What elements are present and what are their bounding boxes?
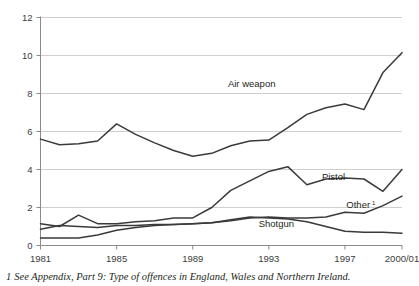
chart-container: 024681012 198119851989199319972000/01 Ai… xyxy=(0,0,419,286)
x-tick-label: 1985 xyxy=(106,253,127,264)
series-label-air-weapon: Air weapon xyxy=(228,78,276,89)
series-line-air-weapon xyxy=(41,53,403,157)
x-tick-label: 1989 xyxy=(182,253,203,264)
series-label-text: Shotgun xyxy=(259,218,294,229)
line-chart: 024681012 198119851989199319972000/01 Ai… xyxy=(0,0,419,286)
gridlines xyxy=(41,18,403,208)
x-tick-label: 2000/01 xyxy=(385,253,419,264)
x-tick-label: 1981 xyxy=(30,253,51,264)
y-tick-label: 8 xyxy=(27,88,32,99)
series-label-text: Pistol xyxy=(322,171,345,182)
series-label-footnote-marker: 1 xyxy=(372,200,376,206)
x-tick-label: 1997 xyxy=(334,253,355,264)
y-tick-label: 0 xyxy=(27,240,32,251)
y-tick-label: 10 xyxy=(22,50,33,61)
footnote-text: See Appendix, Part 9: Type of offences i… xyxy=(14,271,350,282)
series-label-pistol: Pistol xyxy=(322,171,345,182)
y-tick-label: 2 xyxy=(27,202,32,213)
y-tick-label: 6 xyxy=(27,126,32,137)
y-tick-label: 12 xyxy=(22,12,33,23)
x-tick-label: 1993 xyxy=(258,253,279,264)
y-tick-label: 4 xyxy=(27,164,32,175)
y-axis xyxy=(37,17,41,246)
x-axis xyxy=(41,246,403,250)
series-label-text: Air weapon xyxy=(228,78,276,89)
series-labels: Air weaponPistolOther1Shotgun xyxy=(228,78,376,230)
series-label-shotgun: Shotgun xyxy=(259,218,294,229)
y-tick-labels: 024681012 xyxy=(22,12,33,251)
x-tick-labels: 198119851989199319972000/01 xyxy=(30,253,419,264)
series-label-text: Other xyxy=(346,199,370,210)
series-label-other: Other1 xyxy=(346,199,376,210)
series-line-pistol xyxy=(41,167,403,227)
chart-footnote: 1See Appendix, Part 9: Type of offences … xyxy=(6,270,416,283)
footnote-number: 1 xyxy=(6,271,11,282)
